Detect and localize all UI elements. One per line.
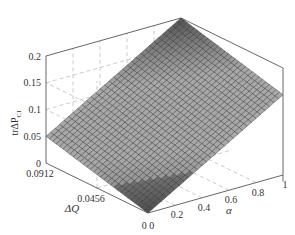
- x-tick-label: 1: [283, 179, 288, 190]
- z-tick-label: 0.15: [24, 77, 42, 88]
- z-tick-label: 0.1: [29, 104, 42, 115]
- y-tick-label: 0.0912: [26, 168, 54, 179]
- origin-tick-label: 0 0: [142, 220, 155, 231]
- z-axis-label: trΔPCI: [9, 110, 23, 136]
- y-tick-label: 0.0456: [77, 193, 105, 204]
- x-tick-label: 0.8: [252, 187, 265, 198]
- x-tick-label: 0.4: [198, 202, 211, 213]
- z-tick-label: 0: [36, 158, 41, 169]
- x-tick-label: 0.2: [171, 209, 184, 220]
- y-axis-label: ΔQ: [64, 202, 79, 214]
- surface-chart: 00.050.10.150.20.04560.09120 00.20.40.60…: [0, 0, 295, 235]
- surface-mesh: [46, 18, 283, 213]
- z-tick-label: 0.2: [29, 51, 42, 62]
- z-tick-label: 0.05: [24, 131, 42, 142]
- x-axis-label: α: [226, 204, 232, 216]
